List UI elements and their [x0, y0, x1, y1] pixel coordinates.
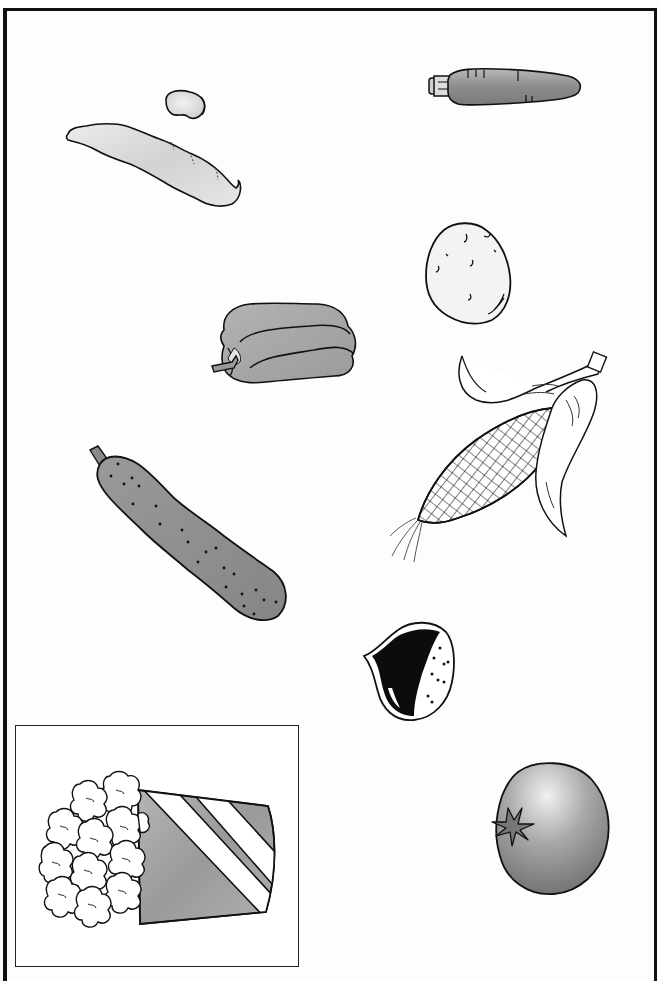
- chestnut-icon: [362, 618, 454, 722]
- tomato-icon: [488, 760, 616, 896]
- corn-picture: [386, 352, 618, 564]
- example-box: [15, 725, 299, 967]
- bell-pepper-picture: [210, 300, 360, 384]
- corn-icon: [386, 352, 618, 564]
- bean-pod-picture: [64, 120, 246, 216]
- chestnut-picture: [362, 618, 454, 722]
- potato-icon: [424, 220, 516, 328]
- bell-pepper-icon: [210, 300, 360, 384]
- popcorn-picture: [40, 770, 280, 932]
- cucumber-icon: [84, 444, 294, 626]
- potato-picture: [424, 220, 516, 328]
- popcorn-icon: [40, 770, 280, 932]
- bean-pod-icon: [64, 120, 246, 216]
- carrot-icon: [428, 66, 586, 120]
- worksheet-page: [0, 0, 659, 981]
- tomato-picture: [488, 760, 616, 896]
- bean-seed-picture: [163, 88, 211, 122]
- carrot-picture: [428, 66, 586, 120]
- cucumber-picture: [84, 444, 294, 626]
- bean-seed-icon: [163, 88, 211, 122]
